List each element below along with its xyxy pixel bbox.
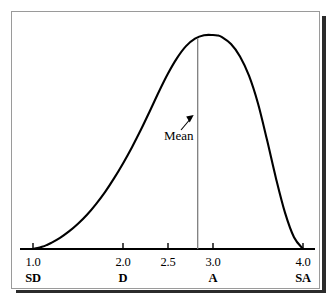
x-tick-label-1.0: 1.0 (25, 255, 40, 270)
x-tick-label-3.0: 3.0 (205, 255, 220, 270)
mean-annotation-label: Mean (164, 128, 194, 144)
x-category-label-d: D (119, 271, 128, 286)
x-tick-label-2.0: 2.0 (115, 255, 130, 270)
x-axis-group (20, 243, 315, 250)
x-tick-label-4.0: 4.0 (295, 255, 310, 270)
x-category-label-sa: SA (295, 271, 311, 286)
mean-arrow-head (186, 115, 194, 123)
figure-root: 1.0SD2.0D2.53.0A4.0SA Mean (0, 0, 333, 303)
x-category-label-a: A (209, 271, 218, 286)
x-category-label-sd: SD (25, 271, 41, 286)
x-tick-label-2.5: 2.5 (160, 255, 175, 270)
